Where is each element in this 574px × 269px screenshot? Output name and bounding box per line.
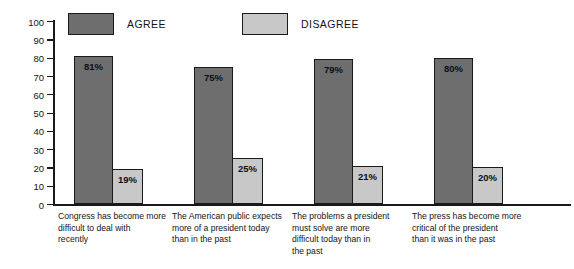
bar-agree-1[interactable]: 81%	[74, 56, 113, 204]
caption-line: than it was in the past	[412, 234, 538, 246]
x-axis-line	[53, 204, 571, 206]
plot-area: 1009080706050403020100 81%19%75%25%79%21…	[53, 21, 571, 204]
y-tick-60: 60	[47, 94, 53, 95]
bar-disagree-3[interactable]: 21%	[352, 166, 383, 204]
caption-line: must solve are more	[292, 223, 410, 235]
y-tick-50: 50	[47, 113, 53, 114]
category-caption-4: The press has become morecritical of the…	[412, 211, 538, 246]
bar-value-label: 20%	[473, 172, 502, 183]
bar-disagree-1[interactable]: 19%	[112, 169, 143, 204]
bar-disagree-4[interactable]: 20%	[472, 167, 503, 204]
bar-value-label: 80%	[435, 63, 472, 74]
caption-line: critical of the president	[412, 223, 538, 235]
bar-agree-4[interactable]: 80%	[434, 58, 473, 204]
y-tick-20: 20	[47, 167, 53, 168]
caption-line: The press has become more	[412, 211, 538, 223]
y-tick-label-70: 70	[33, 71, 44, 82]
y-tick-label-10: 10	[33, 181, 44, 192]
caption-line: difficult today than in	[292, 234, 410, 246]
caption-line: The problems a president	[292, 211, 410, 223]
y-tick-label-90: 90	[33, 34, 44, 45]
bar-value-label: 21%	[353, 171, 382, 182]
caption-line: than in the past	[172, 234, 292, 246]
y-tick-label-0: 0	[39, 199, 44, 210]
bar-group-2: 75%25%	[194, 21, 264, 204]
y-tick-label-60: 60	[33, 89, 44, 100]
y-tick-label-80: 80	[33, 53, 44, 64]
caption-line: more of a president today	[172, 223, 292, 235]
y-tick-label-50: 50	[33, 108, 44, 119]
caption-line: The American public expects	[172, 211, 292, 223]
category-caption-1: Congress has become moredifficult to dea…	[58, 211, 170, 246]
bar-value-label: 81%	[75, 61, 112, 72]
caption-line: the past	[292, 246, 410, 258]
y-axis-line	[53, 20, 55, 205]
bar-value-label: 19%	[113, 174, 142, 185]
bar-group-3: 79%21%	[314, 21, 384, 204]
y-tick-0: 0	[47, 204, 53, 205]
y-tick-label-40: 40	[33, 126, 44, 137]
category-caption-3: The problems a presidentmust solve are m…	[292, 211, 410, 257]
bar-value-label: 25%	[233, 163, 262, 174]
bar-group-4: 80%20%	[434, 21, 504, 204]
y-tick-90: 90	[47, 39, 53, 40]
bar-value-label: 75%	[195, 72, 232, 83]
bar-agree-3[interactable]: 79%	[314, 59, 353, 204]
y-tick-10: 10	[47, 186, 53, 187]
y-tick-70: 70	[47, 76, 53, 77]
bar-agree-2[interactable]: 75%	[194, 67, 233, 204]
caption-line: difficult to deal with	[58, 223, 170, 235]
y-tick-100: 100	[47, 21, 53, 22]
caption-line: recently	[58, 234, 170, 246]
bar-value-label: 79%	[315, 64, 352, 75]
y-tick-label-20: 20	[33, 163, 44, 174]
y-tick-30: 30	[47, 149, 53, 150]
y-tick-label-100: 100	[28, 16, 44, 27]
y-tick-label-30: 30	[33, 144, 44, 155]
bar-disagree-2[interactable]: 25%	[232, 158, 263, 204]
bar-group-1: 81%19%	[74, 21, 144, 204]
caption-line: Congress has become more	[58, 211, 170, 223]
y-tick-40: 40	[47, 131, 53, 132]
category-caption-2: The American public expectsmore of a pre…	[172, 211, 292, 246]
y-tick-80: 80	[47, 58, 53, 59]
